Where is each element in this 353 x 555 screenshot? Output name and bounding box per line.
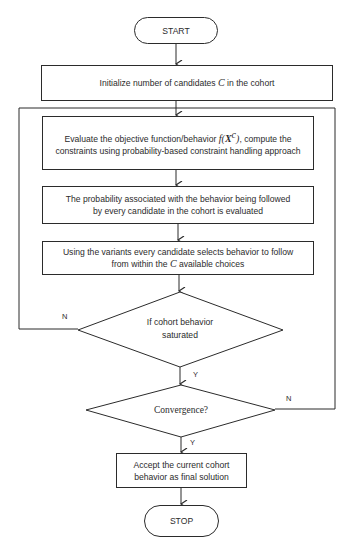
convergence-yes-label: Y — [190, 438, 195, 447]
variable-c: C — [218, 77, 225, 88]
stop-label: STOP — [170, 515, 193, 527]
convergence-no-label: N — [286, 394, 291, 403]
stop-terminal: STOP — [144, 505, 219, 537]
init-process-box: Initialize number of candidates C in the… — [41, 65, 333, 101]
saturated-yes-label: Y — [193, 370, 198, 379]
variable-c: C — [170, 258, 177, 269]
probability-text: The probability associated with the beha… — [65, 193, 291, 217]
variants-text: Using the variants every candidate selec… — [59, 246, 297, 270]
evaluate-process-box: Evaluate the objective function/behavior… — [42, 116, 314, 170]
accept-process-box: Accept the current cohort behavior as fi… — [116, 453, 247, 488]
convergence-decision-text: Convergence? — [131, 404, 231, 417]
saturated-decision-text: If cohort behavior saturated — [120, 316, 240, 342]
variants-process-box: Using the variants every candidate selec… — [42, 241, 314, 275]
saturated-no-label: N — [62, 312, 67, 321]
start-terminal: START — [134, 17, 218, 44]
init-text: Initialize number of candidates C in the… — [100, 77, 275, 89]
start-label: START — [162, 25, 189, 37]
probability-process-box: The probability associated with the beha… — [42, 186, 314, 224]
evaluate-text: Evaluate the objective function/behavior… — [53, 129, 303, 157]
